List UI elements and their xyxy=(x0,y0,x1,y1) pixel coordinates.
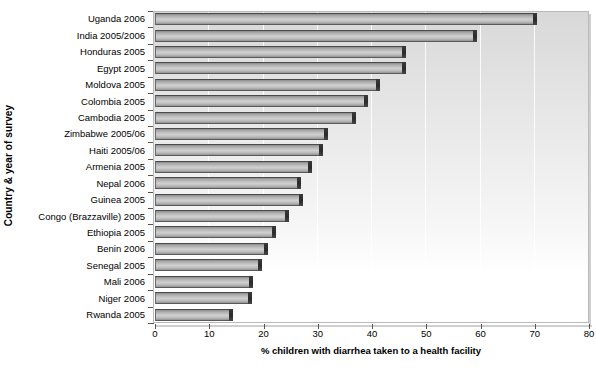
bar-end-cap xyxy=(324,128,328,140)
bar-row xyxy=(155,11,589,27)
bar xyxy=(155,79,380,91)
x-axis-tick-label: 10 xyxy=(204,329,215,339)
y-axis-tick-label: Mali 2006 xyxy=(18,274,149,290)
x-axis-tick-label: 80 xyxy=(584,329,595,339)
bar-row xyxy=(155,77,589,93)
x-axis-tick-label: 70 xyxy=(529,329,540,339)
bar-end-cap xyxy=(364,95,368,107)
bar-row xyxy=(155,224,589,240)
bar-end-cap xyxy=(258,259,262,271)
x-axis-tick-label: 20 xyxy=(258,329,269,339)
bar xyxy=(155,13,537,25)
y-axis-tick-label: Colombia 2005 xyxy=(18,93,149,109)
x-axis-tick-labels: 01020304050607080 xyxy=(0,329,596,343)
bar xyxy=(155,226,276,238)
bar-row xyxy=(155,93,589,109)
bar xyxy=(155,144,323,156)
bar xyxy=(155,194,303,206)
bar-row xyxy=(155,241,589,257)
y-axis-tick-label: Ethiopia 2005 xyxy=(18,224,149,240)
x-axis-title: % children with diarrhea taken to a heal… xyxy=(153,345,589,356)
y-axis-tick-label: Honduras 2005 xyxy=(18,44,149,60)
bar-row xyxy=(155,290,589,306)
y-axis-tick-label: Rwanda 2005 xyxy=(18,307,149,323)
y-axis-title-text: Country & year of survey xyxy=(4,104,15,225)
bar-end-cap xyxy=(264,243,268,255)
bar-row xyxy=(155,44,589,60)
bar-end-cap xyxy=(376,79,380,91)
bar-end-cap xyxy=(473,30,477,42)
y-axis-tick-label: Uganda 2006 xyxy=(18,11,149,27)
bar xyxy=(155,95,368,107)
bar xyxy=(155,259,262,271)
bar-row xyxy=(155,60,589,76)
y-axis-tick-label: Armenia 2005 xyxy=(18,159,149,175)
bar-end-cap xyxy=(308,161,312,173)
bar-end-cap xyxy=(299,194,303,206)
bars-layer xyxy=(155,11,589,323)
y-axis-tick-label: Benin 2006 xyxy=(18,241,149,257)
bar-row xyxy=(155,306,589,322)
y-axis-tick-label: Guinea 2005 xyxy=(18,192,149,208)
plot-frame-shadow-right xyxy=(589,14,591,325)
bar-row xyxy=(155,142,589,158)
bar-row xyxy=(155,27,589,43)
y-axis-tick-label: Senegal 2005 xyxy=(18,257,149,273)
x-axis-tick-label: 60 xyxy=(475,329,486,339)
x-axis-tick-label: 30 xyxy=(312,329,323,339)
y-axis-title: Country & year of survey xyxy=(0,0,18,330)
bar-end-cap xyxy=(402,46,406,58)
bar-end-cap xyxy=(352,112,356,124)
bar-end-cap xyxy=(229,309,233,321)
bar xyxy=(155,46,406,58)
bar-end-cap xyxy=(248,292,252,304)
y-axis-tick-label: Nepal 2006 xyxy=(18,175,149,191)
y-axis-tick-label: Haiti 2005/06 xyxy=(18,142,149,158)
bar-row xyxy=(155,126,589,142)
bar xyxy=(155,62,406,74)
bar-end-cap xyxy=(272,226,276,238)
y-axis-tick-label: Zimbabwe 2005/06 xyxy=(18,126,149,142)
bar xyxy=(155,177,301,189)
bar-row xyxy=(155,274,589,290)
y-axis-tick-label: Niger 2006 xyxy=(18,290,149,306)
y-axis-tick-labels: Uganda 2006India 2005/2006Honduras 2005E… xyxy=(18,11,149,323)
bar-row xyxy=(155,175,589,191)
y-axis-tick-label: Moldova 2005 xyxy=(18,77,149,93)
y-axis-tick-label: Congo (Brazzaville) 2005 xyxy=(18,208,149,224)
y-axis-tick-label: Egypt 2005 xyxy=(18,60,149,76)
bar-end-cap xyxy=(249,276,253,288)
x-axis-tick-label: 0 xyxy=(152,329,157,339)
bar xyxy=(155,309,233,321)
y-axis-tick-label: Cambodia 2005 xyxy=(18,110,149,126)
x-axis-tick-label: 50 xyxy=(421,329,432,339)
bar xyxy=(155,30,477,42)
bar-end-cap xyxy=(533,13,537,25)
bar xyxy=(155,112,356,124)
bar-chart: Country & year of survey Uganda 2006Indi… xyxy=(0,0,596,371)
bar xyxy=(155,292,252,304)
bar-end-cap xyxy=(402,62,406,74)
bar xyxy=(155,128,328,140)
bar-row xyxy=(155,159,589,175)
bar xyxy=(155,161,312,173)
bar xyxy=(155,276,253,288)
bar-row xyxy=(155,109,589,125)
bar-row xyxy=(155,191,589,207)
y-axis-tick-label: India 2005/2006 xyxy=(18,27,149,43)
bar-end-cap xyxy=(285,210,289,222)
bar-end-cap xyxy=(297,177,301,189)
bar xyxy=(155,210,289,222)
bar-row xyxy=(155,208,589,224)
bar-end-cap xyxy=(319,144,323,156)
bar xyxy=(155,243,268,255)
x-axis-tick-label: 40 xyxy=(367,329,378,339)
bar-row xyxy=(155,257,589,273)
